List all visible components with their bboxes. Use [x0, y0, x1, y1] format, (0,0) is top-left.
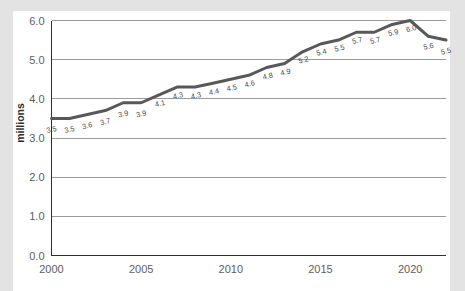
data-point-label: 3.6: [81, 120, 93, 131]
x-tick-labels-group: 20002005201020152020: [39, 263, 422, 275]
y-tick-label: 6.0: [29, 15, 44, 27]
data-point-label: 5.4: [315, 47, 327, 58]
data-point-label: 3.7: [99, 116, 111, 127]
data-point-label: 4.5: [226, 82, 238, 93]
y-tick-label: 3.0: [29, 132, 44, 144]
y-axis-title-group: millions: [14, 103, 26, 143]
data-point-labels-group: 3.53.53.63.73.93.94.14.34.34.44.54.64.84…: [45, 23, 452, 135]
data-point-label: 5.2: [297, 54, 309, 65]
data-point-label: 4.1: [154, 98, 166, 109]
data-point-label: 3.5: [63, 124, 75, 135]
data-point-label: 5.7: [351, 35, 363, 46]
data-point-label: 6.0: [405, 23, 417, 34]
gridlines-group: [52, 21, 447, 217]
data-point-label: 4.4: [208, 86, 220, 97]
data-point-label: 4.9: [280, 67, 292, 78]
y-tick-label: 1.0: [29, 210, 44, 222]
x-tick-label: 2020: [398, 263, 422, 275]
x-tick-label: 2005: [129, 263, 153, 275]
data-point-label: 3.5: [45, 124, 57, 135]
series-line-millions: [52, 21, 447, 119]
data-point-label: 5.5: [333, 43, 345, 54]
data-point-label: 4.3: [190, 90, 202, 101]
data-point-label: 4.8: [262, 71, 274, 82]
data-point-label: 3.9: [135, 108, 147, 119]
data-point-label: 5.6: [422, 41, 434, 52]
data-point-label: 5.9: [387, 27, 399, 38]
x-tick-label: 2015: [308, 263, 332, 275]
data-point-label: 5.7: [369, 35, 381, 46]
y-tick-labels-group: 0.01.02.03.04.05.06.0: [29, 15, 44, 262]
y-axis-title: millions: [14, 103, 26, 143]
y-tick-label: 2.0: [29, 171, 44, 183]
x-tick-label: 2000: [39, 263, 63, 275]
data-point-label: 3.9: [117, 108, 129, 119]
y-tick-label: 4.0: [29, 93, 44, 105]
data-point-label: 4.3: [172, 90, 184, 101]
series-line-group: [52, 21, 447, 119]
x-tick-label: 2010: [219, 263, 243, 275]
y-tick-label: 5.0: [29, 54, 44, 66]
y-tick-label: 0.0: [29, 250, 44, 262]
data-point-label: 4.6: [244, 78, 256, 89]
data-point-label: 5.5: [440, 46, 452, 57]
